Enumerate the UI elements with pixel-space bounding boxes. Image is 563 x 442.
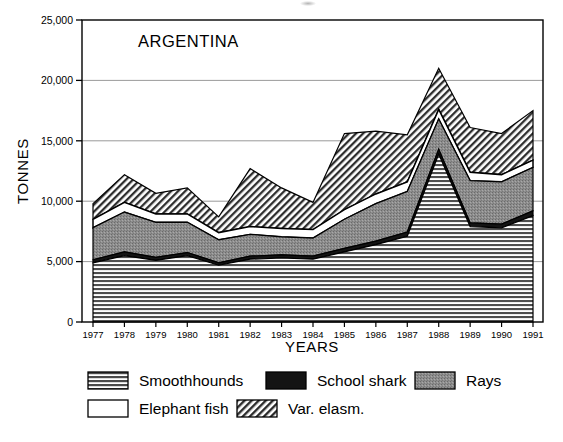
legend-item-smoothhounds: Smoothhounds (88, 372, 244, 389)
x-tick-label: 1977 (82, 329, 103, 340)
x-tick-label: 1990 (491, 329, 512, 340)
legend-swatch-elephant-fish (88, 400, 128, 417)
y-axis-title: TONNES (14, 138, 31, 204)
x-tick-label: 1986 (365, 329, 386, 340)
scan-artifact (300, 1, 316, 6)
x-tick-label: 1982 (240, 329, 261, 340)
x-axis-title: YEARS (285, 338, 339, 355)
chart-canvas: 05,00010,00015,00020,00025,000 197719781… (0, 0, 563, 442)
legend-swatch-school-shark (266, 372, 306, 389)
x-tick-label: 1991 (522, 329, 543, 340)
panel-title: ARGENTINA (138, 32, 239, 50)
y-tick-label: 10,000 (41, 195, 73, 207)
x-tick-label: 1989 (460, 329, 481, 340)
legend-item-school-shark: School shark (266, 372, 407, 389)
chart-legend: SmoothhoundsSchool sharkRaysElephant fis… (88, 372, 502, 417)
legend-label-elephant-fish: Elephant fish (139, 400, 229, 417)
y-axis: 05,00010,00015,00020,00025,000 (41, 14, 82, 328)
legend-item-var-elasm: Var. elasm. (237, 400, 364, 417)
y-tick-label: 5,000 (47, 255, 73, 267)
y-tick-label: 25,000 (41, 14, 73, 26)
x-tick-label: 1979 (145, 329, 166, 340)
x-tick-label: 1988 (428, 329, 449, 340)
legend-label-rays: Rays (466, 372, 502, 389)
y-tick-label: 20,000 (41, 74, 73, 86)
chart-figure: 05,00010,00015,00020,00025,000 197719781… (0, 0, 563, 442)
legend-swatch-smoothhounds (88, 372, 128, 389)
legend-swatch-rays (415, 372, 455, 389)
y-tick-label: 15,000 (41, 135, 73, 147)
legend-label-smoothhounds: Smoothhounds (139, 372, 244, 389)
legend-swatch-var-elasm (237, 400, 277, 417)
legend-item-rays: Rays (415, 372, 502, 389)
x-tick-label: 1987 (397, 329, 418, 340)
x-tick-label: 1981 (208, 329, 229, 340)
legend-label-school-shark: School shark (317, 372, 407, 389)
x-tick-label: 1978 (114, 329, 135, 340)
legend-label-var-elasm: Var. elasm. (288, 400, 364, 417)
legend-item-elephant-fish: Elephant fish (88, 400, 229, 417)
y-tick-label: 0 (67, 316, 73, 328)
x-tick-label: 1980 (177, 329, 198, 340)
